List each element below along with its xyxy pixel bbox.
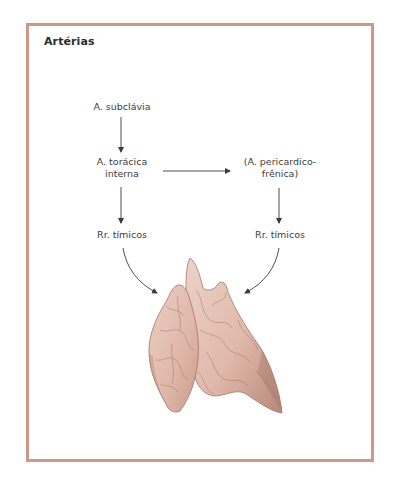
curved-arrow-right-to-thymus [245,248,279,293]
diagram-graphics [0,0,395,485]
curved-arrow-left-to-thymus [123,248,157,293]
